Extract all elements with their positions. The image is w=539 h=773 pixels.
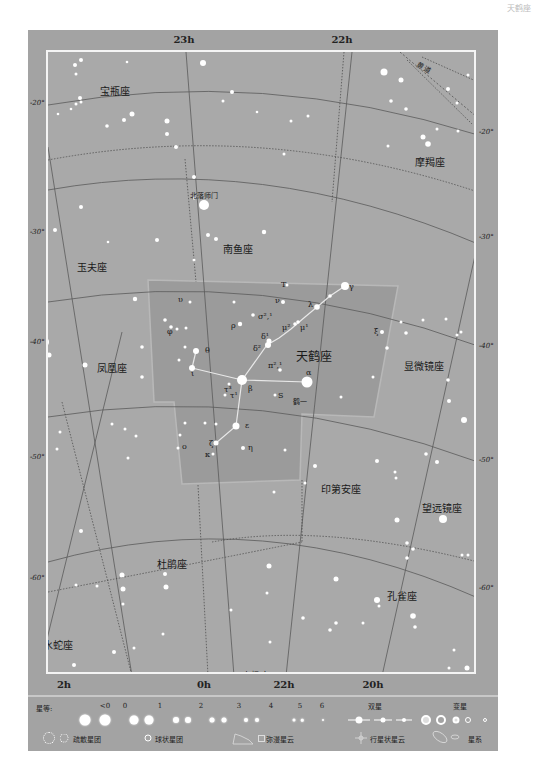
magnitude-value: 6: [320, 702, 324, 710]
constellation-name: 杜鹃座: [157, 556, 187, 571]
map-annotation: 北落师门: [190, 190, 218, 200]
star-chart[interactable]: 宝瓶座摩羯座南鱼座玉夫座天鹤座凤凰座显微镜座印第安座望远镜座杜鹃座孔雀座水蛇座南…: [46, 50, 476, 674]
open-cluster-icon-large: [43, 732, 55, 744]
magnitude-value: 0: [123, 702, 127, 710]
star-mag-4a-icon: [244, 718, 248, 722]
star-designation: π²,¹: [268, 361, 282, 370]
star-designation: S: [278, 391, 283, 400]
constellation-name: 南鱼座: [223, 241, 253, 256]
magnitude-value: 2: [199, 702, 203, 710]
star-designation: δ¹: [261, 332, 269, 341]
variable-star-1-icon: [421, 715, 431, 725]
constellation-name: 天鹤座: [296, 347, 332, 364]
star-designation: ζ: [209, 439, 213, 448]
star-designation: δ²: [253, 344, 261, 353]
star-mag-2b-icon: [185, 717, 191, 723]
star-mag-4b-icon: [255, 718, 259, 722]
dec-label-left: -30°: [30, 228, 45, 236]
magnitude-value: <0: [100, 702, 110, 710]
ra-label-bottom: 2h: [57, 679, 71, 690]
dec-label-right: -50°: [479, 456, 494, 464]
galaxy-icon: [431, 730, 461, 744]
constellation-name: 玉夫座: [77, 259, 107, 274]
star-designation: ξ: [374, 327, 378, 336]
constellation-name: 摩羯座: [415, 154, 445, 169]
star-designation: ν: [275, 296, 280, 305]
star-designation: ι: [191, 369, 194, 378]
constellation-name: 孔雀座: [387, 588, 417, 603]
star-designation: τ¹: [230, 391, 238, 400]
star-designation: κ: [205, 450, 210, 459]
dec-label-left: -20°: [30, 99, 45, 107]
star-mag-lt0-icon: [80, 715, 91, 726]
variable-star-5-icon: [483, 718, 487, 722]
planetary-nebula-label: 行星状星云: [370, 734, 405, 744]
star-designation: υ: [178, 295, 183, 304]
star-mag-1a-icon: [130, 716, 139, 725]
globular-cluster-icon: [145, 735, 152, 742]
dec-label-left: -40°: [30, 338, 45, 346]
star-mag-5b-icon: [301, 719, 304, 722]
constellation-name: 水蛇座: [46, 637, 73, 652]
double-star-label: 双星: [368, 701, 382, 711]
globular-cluster-label: 球状星团: [155, 734, 183, 744]
variable-star-3-icon: [453, 717, 460, 724]
dec-label-right: -20°: [479, 128, 494, 136]
star-designation: T: [281, 280, 286, 289]
dec-label-left: -50°: [30, 453, 45, 461]
star-designation: ε: [245, 421, 249, 430]
ra-label-top: 23h: [173, 34, 194, 45]
magnitude-value: 4: [269, 702, 273, 710]
open-cluster-label: 疏散星团: [73, 734, 101, 744]
ra-label-bottom: 20h: [362, 679, 383, 690]
dec-label-left: -60°: [30, 574, 45, 582]
map-annotation: 鹤一: [293, 396, 307, 406]
star-designation: μ²: [282, 323, 290, 332]
ra-label-bottom: 22h: [273, 679, 294, 690]
star-designation: α: [306, 368, 311, 377]
constellation-name: 南极座: [242, 669, 269, 675]
star-designation: φ: [167, 327, 173, 336]
bright-nebula-icon: [258, 735, 265, 742]
magnitude-value: 5: [298, 702, 302, 710]
diffuse-nebula-icon: [231, 730, 255, 746]
star-designation: ρ: [231, 321, 236, 330]
dec-label-right: -30°: [479, 233, 494, 241]
star-designation: β: [248, 384, 253, 393]
star-mag-0-icon: [100, 715, 111, 726]
map-legend: 星等: <00123456 双星 变星 疏散星团 球状星团 弥漫星云 行星状星云…: [28, 695, 498, 751]
magnitude-value: 1: [158, 702, 162, 710]
constellation-name: 望远镜座: [422, 500, 462, 515]
star-mag-2a-icon: [173, 717, 179, 723]
open-cluster-icon-small: [60, 734, 69, 743]
star-designation: γ: [349, 282, 354, 291]
constellation-name: 显微镜座: [404, 358, 444, 373]
star-designation: λ: [308, 300, 313, 309]
magnitude-value: 3: [237, 702, 241, 710]
variable-star-2-icon: [436, 715, 446, 725]
page-header: 天鹤座: [507, 2, 531, 13]
double-star-icon: [346, 714, 416, 726]
grus-region: [148, 280, 398, 484]
ecliptic-line: [400, 52, 476, 118]
ra-label-bottom: 0h: [197, 679, 211, 690]
constellation-name: 宝瓶座: [100, 83, 130, 98]
star-designation: θ: [205, 346, 210, 355]
constellation-name: 印第安座: [321, 481, 361, 496]
star-mag-1b-icon: [145, 716, 154, 725]
star-designation: σ²,¹: [258, 312, 272, 321]
star-mag-5a-icon: [293, 719, 296, 722]
star-designation: ο: [182, 442, 187, 451]
magnitude-label: 星等:: [36, 703, 52, 713]
diffuse-nebula-label: 弥漫星云: [266, 734, 294, 744]
star-designation: μ¹: [300, 323, 308, 332]
planetary-nebula-icon: [355, 732, 367, 744]
star-designation: η: [248, 443, 253, 452]
variable-star-4-icon: [465, 717, 471, 723]
star-mag-6-icon: [322, 719, 324, 721]
star-mag-3a-icon: [210, 718, 215, 723]
dec-label-right: -60°: [479, 584, 494, 592]
ra-label-top: 22h: [331, 34, 352, 45]
constellation-name: 凤凰座: [97, 360, 127, 375]
galaxy-label: 星系: [468, 734, 482, 744]
